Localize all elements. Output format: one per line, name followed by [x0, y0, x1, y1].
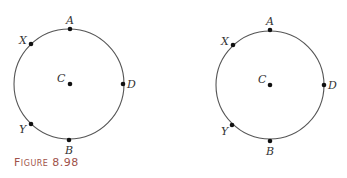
center-point	[68, 82, 73, 87]
point-a	[268, 28, 273, 33]
point-y	[230, 123, 235, 128]
label-a: A	[65, 14, 74, 27]
label-a: A	[265, 15, 274, 28]
label-c: C	[57, 72, 66, 85]
point-d	[121, 82, 126, 87]
point-x	[231, 43, 236, 48]
point-x	[29, 42, 34, 47]
center-point	[268, 83, 273, 88]
label-x: X	[18, 34, 28, 47]
point-d	[322, 83, 327, 88]
label-d: D	[126, 78, 136, 91]
label-c: C	[258, 73, 267, 86]
point-b	[268, 139, 273, 144]
left-circle-figure: C A X D Y B	[14, 14, 136, 157]
label-b: B	[265, 145, 274, 158]
label-d: D	[327, 79, 337, 92]
label-y: Y	[19, 123, 28, 136]
label-x: X	[220, 35, 230, 48]
figure-caption: Figure 8.98	[14, 156, 79, 169]
point-y	[29, 122, 34, 127]
label-y: Y	[221, 125, 230, 138]
figure-canvas: C A X D Y B C A X D Y B	[0, 0, 347, 178]
point-b	[67, 138, 72, 143]
point-a	[68, 27, 73, 32]
right-circle-figure: C A X D Y B	[216, 15, 337, 158]
